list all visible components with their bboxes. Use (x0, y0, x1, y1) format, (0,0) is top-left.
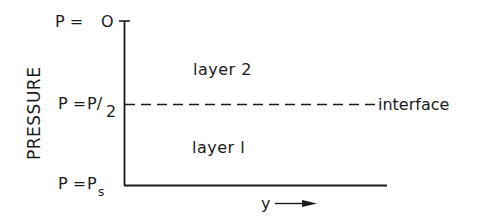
y-axis-label: y (261, 194, 270, 213)
level-interface-value: P/ (87, 94, 103, 113)
level-interface-sub: 2 (106, 102, 116, 121)
level-surface-value: P (87, 174, 97, 193)
layer-2-label: layer 2 (193, 60, 252, 79)
two-layer-pressure-diagram: PRESSURE P = O P = P/ 2 P = P s interfac… (0, 0, 479, 223)
level-top-prefix: P = (55, 12, 83, 31)
level-surface-sub: s (98, 185, 104, 199)
layer-1-label: layer l (192, 138, 245, 157)
direction-arrow-icon (275, 200, 317, 207)
level-top-value: O (101, 12, 114, 31)
level-interface-prefix: P = (58, 94, 86, 113)
level-label-surface: P = P s (58, 174, 104, 199)
level-label-top: P = O (55, 12, 114, 31)
level-surface-prefix: P = (58, 174, 86, 193)
interface-label: interface (378, 95, 449, 114)
pressure-axis-title: PRESSURE (24, 67, 44, 160)
level-label-interface: P = P/ 2 (58, 94, 116, 121)
